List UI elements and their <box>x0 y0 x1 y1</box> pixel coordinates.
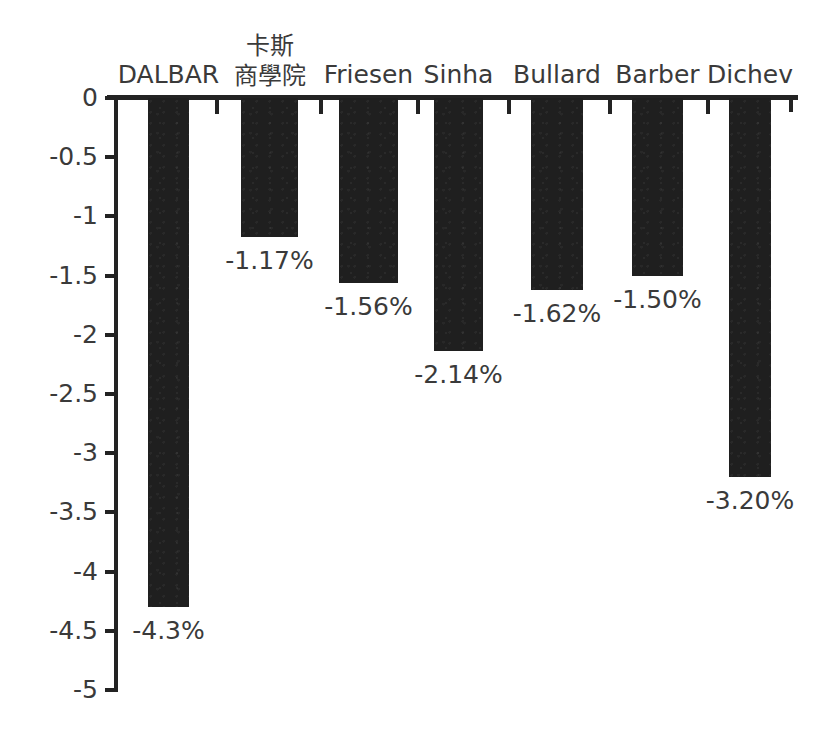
bar <box>148 98 189 607</box>
y-axis-tick <box>105 155 118 159</box>
x-axis-tick <box>319 99 323 114</box>
y-axis-tick-label: -0.5 <box>12 144 98 169</box>
y-axis-tick <box>105 96 118 100</box>
y-axis-tick-label: -2 <box>12 322 98 347</box>
y-axis-tick <box>105 274 118 278</box>
value-label: -3.20% <box>655 487 840 514</box>
y-axis-tick-label: -2.5 <box>12 381 98 406</box>
x-axis-end-cap <box>789 95 793 112</box>
y-axis-tick-label: -3.5 <box>12 499 98 524</box>
bar-chart: 0-0.5-1-1.5-2-2.5-3-3.5-4-4.5-5 DALBAR卡斯… <box>0 0 840 737</box>
y-axis-tick <box>105 510 118 514</box>
value-label: -4.3% <box>74 617 264 644</box>
y-axis-tick <box>105 214 118 218</box>
bar <box>632 98 683 276</box>
y-axis-tick-label: -4 <box>12 559 98 584</box>
y-axis-tick-label: -1.5 <box>12 263 98 288</box>
x-axis-tick <box>608 99 612 114</box>
value-label: -2.14% <box>364 361 554 388</box>
y-axis-tick <box>105 688 118 692</box>
y-axis-tick <box>105 392 118 396</box>
bar <box>531 98 583 290</box>
value-label: -1.50% <box>563 286 753 313</box>
category-label: Dichev <box>660 60 840 89</box>
x-axis-tick <box>507 99 511 114</box>
y-axis-tick-label: -5 <box>12 677 98 702</box>
x-axis-tick <box>416 99 420 114</box>
y-axis-tick-label: -3 <box>12 440 98 465</box>
value-label: -1.17% <box>175 247 365 274</box>
y-axis-tick-label: -1 <box>12 203 98 228</box>
y-axis-tick <box>105 570 118 574</box>
x-axis-tick <box>215 99 219 114</box>
bar <box>241 98 298 237</box>
value-label: -1.56% <box>274 293 464 320</box>
x-axis-tick <box>706 99 710 114</box>
y-axis-tick <box>105 451 118 455</box>
y-axis-tick <box>105 333 118 337</box>
